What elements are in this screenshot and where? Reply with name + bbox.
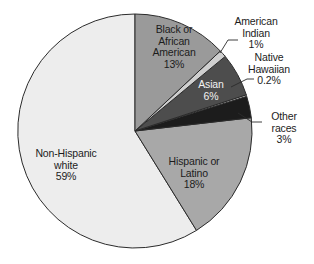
slice-label-black-african-american: Black or African American 13%	[138, 24, 210, 70]
pie-chart-figure: Non-Hispanic white 59% Black or African …	[0, 0, 314, 264]
slice-label-other-races: Other races 3%	[260, 111, 308, 146]
slice-label-hispanic-latino: Hispanic or Latino 18%	[155, 156, 233, 191]
slice-label-non-hispanic-white: Non-Hispanic white 59%	[14, 148, 118, 183]
slice-label-american-indian: American Indian 1%	[223, 16, 289, 51]
slice-label-native-hawaiian: Native Hawaiian 0.2%	[238, 52, 300, 87]
slice-label-asian: Asian 6%	[188, 79, 234, 102]
